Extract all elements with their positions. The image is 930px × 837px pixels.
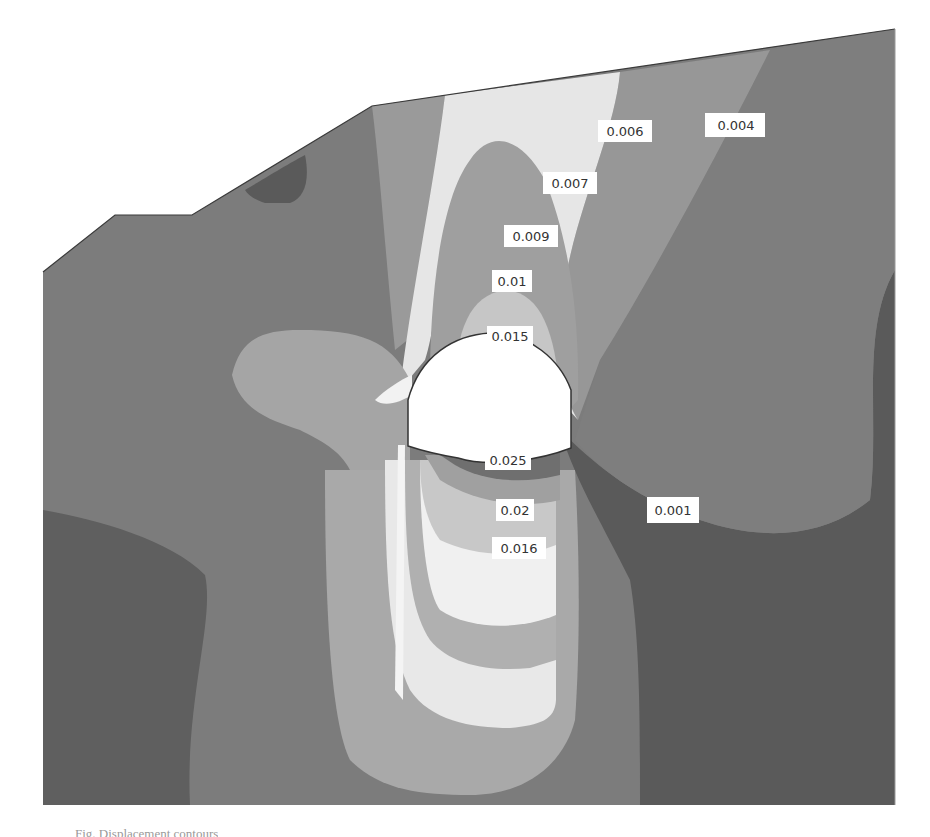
label-0.009: 0.009 [504,225,558,247]
label-0.02: 0.02 [496,499,534,521]
label-0.001: 0.001 [647,497,699,523]
svg-text:0.01: 0.01 [498,274,527,289]
svg-text:0.015: 0.015 [491,329,528,344]
svg-text:0.001: 0.001 [654,503,691,518]
svg-text:0.007: 0.007 [551,176,588,191]
label-0.007: 0.007 [543,172,597,194]
svg-text:0.02: 0.02 [501,503,530,518]
figure-caption: Fig. Displacement contours [75,826,218,837]
label-0.01: 0.01 [492,270,532,292]
label-0.025: 0.025 [485,450,531,470]
svg-text:0.004: 0.004 [717,118,754,133]
label-0.016: 0.016 [492,537,546,559]
label-0.015: 0.015 [487,326,533,346]
label-0.004: 0.004 [705,113,765,137]
svg-text:0.009: 0.009 [512,229,549,244]
svg-text:0.016: 0.016 [500,541,537,556]
label-0.006: 0.006 [598,120,652,142]
svg-text:0.006: 0.006 [606,124,643,139]
contour-plot: 0.006 0.004 0.007 0.009 0.01 0.015 0.025 [0,0,930,837]
svg-text:0.025: 0.025 [489,453,526,468]
